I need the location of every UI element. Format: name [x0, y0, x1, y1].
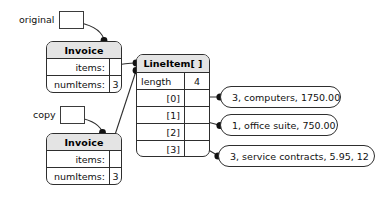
- array-slot-value-2: [185, 124, 209, 140]
- field-value-numitems: 3: [110, 76, 121, 93]
- array-slot-value-3: [185, 141, 209, 157]
- field-value-items: [110, 59, 121, 75]
- object-lineitem-array[interactable]: LineItem[ ] length 4 [0] [1] [2] [3]: [136, 54, 210, 157]
- array-length-value: 4: [185, 73, 209, 89]
- object-lineitem-0[interactable]: 3, computers, 1750.00: [220, 86, 341, 108]
- array-slot-value-0: [185, 90, 209, 106]
- object-lineitem-1[interactable]: 1, office suite, 750.00: [220, 114, 338, 136]
- field-row-numitems: numItems: 3: [47, 76, 121, 93]
- reference-box-icon: [59, 11, 84, 29]
- array-row-slot: [3]: [137, 141, 209, 157]
- object-invoice-original-type: Invoice: [47, 42, 121, 59]
- object-lineitem-1-label: 1, office suite, 750.00: [232, 120, 336, 131]
- field-value-items: [110, 151, 121, 167]
- array-slot-index-1: [1]: [137, 107, 185, 123]
- object-diagram-canvas: original copy Invoice items: numItems: 3…: [0, 0, 387, 203]
- array-slot-index-3: [3]: [137, 141, 185, 157]
- object-lineitem-2-label: 3, service contracts, 5.95, 12: [230, 151, 369, 162]
- field-name-items: items:: [47, 59, 110, 75]
- array-slot-index-2: [2]: [137, 124, 185, 140]
- reference-variable-copy[interactable]: copy: [33, 106, 85, 124]
- object-lineitem-2[interactable]: 3, service contracts, 5.95, 12: [218, 145, 375, 167]
- field-row-numitems: numItems: 3: [47, 168, 121, 185]
- field-name-numitems: numItems:: [47, 168, 110, 185]
- object-invoice-copy[interactable]: Invoice items: numItems: 3: [46, 133, 122, 185]
- array-row-slot: [2]: [137, 124, 209, 141]
- reference-box-icon: [60, 106, 85, 124]
- field-value-numitems: 3: [110, 168, 121, 185]
- array-row-slot: [1]: [137, 107, 209, 124]
- reference-variable-copy-label: copy: [33, 110, 56, 120]
- reference-variable-original[interactable]: original: [19, 11, 84, 29]
- array-slot-index-0: [0]: [137, 90, 185, 106]
- field-row-items: items:: [47, 151, 121, 168]
- array-length-label: length: [137, 73, 185, 89]
- array-row-slot: [0]: [137, 90, 209, 107]
- object-lineitem-0-label: 3, computers, 1750.00: [232, 92, 340, 103]
- reference-variable-original-label: original: [19, 15, 55, 25]
- object-invoice-copy-type: Invoice: [47, 134, 121, 151]
- array-row-length: length 4: [137, 73, 209, 90]
- field-row-items: items:: [47, 59, 121, 76]
- array-slot-value-1: [185, 107, 209, 123]
- array-type-name: LineItem[ ]: [137, 55, 209, 73]
- object-invoice-original[interactable]: Invoice items: numItems: 3: [46, 41, 122, 93]
- field-name-items: items:: [47, 151, 110, 167]
- field-name-numitems: numItems:: [47, 76, 110, 93]
